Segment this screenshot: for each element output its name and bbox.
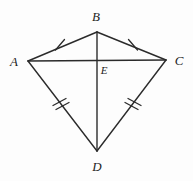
vertex-label-e: E <box>101 65 108 76</box>
vertex-label-c: C <box>175 54 184 67</box>
geometry-figure-kite: A B C D E <box>0 0 193 181</box>
segment-bc <box>97 32 166 60</box>
segment-ab <box>28 32 97 61</box>
vertex-label-b: B <box>92 10 100 23</box>
kite-diagram-svg <box>0 0 193 181</box>
vertex-label-a: A <box>10 55 18 68</box>
vertex-label-d: D <box>92 160 101 173</box>
tick-mark-ab <box>56 40 65 51</box>
